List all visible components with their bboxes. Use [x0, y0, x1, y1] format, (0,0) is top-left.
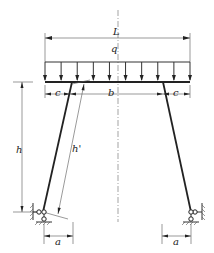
- right-base-label: a: [173, 236, 179, 247]
- right-column: [163, 82, 191, 212]
- span-label: L: [112, 26, 120, 37]
- left-offset-label: c: [55, 87, 61, 98]
- load-label: q: [111, 43, 117, 54]
- load-arrowhead: [91, 75, 95, 81]
- distributed-load: [43, 62, 192, 81]
- load-arrowhead: [107, 75, 111, 81]
- right-pin-support: [182, 203, 205, 225]
- load-arrowhead: [124, 75, 128, 81]
- load-arrowhead: [43, 75, 47, 81]
- load-arrowhead: [75, 75, 79, 81]
- frame-diagram: L q c b c h h': [0, 0, 214, 253]
- inner-width-label: b: [108, 87, 114, 98]
- load-arrowhead: [188, 75, 192, 81]
- left-base-label: a: [55, 236, 61, 247]
- height-label: h: [16, 144, 22, 155]
- inclined-length-dimension: [43, 80, 90, 219]
- load-arrowhead: [172, 75, 176, 81]
- left-column: [43, 82, 72, 212]
- span-dimension: [45, 33, 190, 62]
- offset-dimensions: [45, 85, 190, 98]
- load-arrowhead: [59, 75, 63, 81]
- right-offset-label: c: [173, 87, 179, 98]
- load-arrowhead: [140, 75, 144, 81]
- left-pin-support: [30, 203, 52, 225]
- load-arrowhead: [156, 75, 160, 81]
- inclined-length-label: h': [72, 143, 81, 154]
